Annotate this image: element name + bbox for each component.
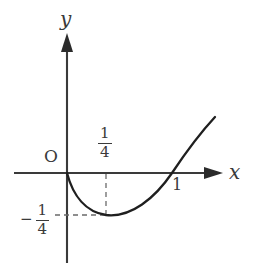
fraction-numerator: 1	[36, 203, 50, 220]
plot-canvas	[0, 0, 255, 280]
x-tick-label-one-quarter: 1 4	[98, 126, 112, 161]
minus-sign: −	[20, 212, 33, 227]
y-axis-label: y	[60, 9, 71, 29]
fraction-denominator: 4	[98, 143, 112, 161]
origin-label: O	[44, 148, 58, 165]
fraction-one-quarter: 1 4	[98, 126, 112, 161]
signed-fraction: − 1 4	[20, 203, 49, 238]
x-tick-label-one: 1	[172, 177, 182, 193]
fraction-denominator: 4	[36, 220, 50, 238]
x-axis-label: x	[229, 162, 240, 182]
math-graph-figure: y x O 1 4 − 1 4 1	[0, 0, 255, 280]
curve-path	[67, 117, 215, 215]
y-tick-label-negative-one-quarter: − 1 4	[20, 203, 49, 238]
x-axis-arrow-icon	[204, 167, 223, 179]
fraction-one-quarter-negative: 1 4	[36, 203, 50, 238]
y-axis-arrow-icon	[61, 33, 73, 52]
fraction-numerator: 1	[98, 126, 112, 143]
